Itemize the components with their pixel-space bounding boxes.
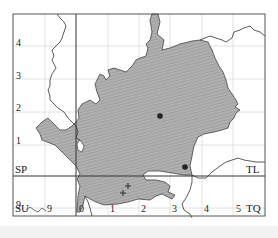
easting-label: 5: [236, 203, 241, 214]
record-dot: [157, 113, 163, 119]
distribution-map: 4 3 2 1 9 SP TL SU TQ 9 0 1 2 3 4 5: [0, 0, 278, 238]
northing-label: 3: [16, 70, 21, 81]
easting-label: 0: [79, 203, 84, 214]
easting-label: 3: [172, 203, 177, 214]
boundary-line-west: [48, 14, 80, 140]
grid-square-label-tl: TL: [246, 163, 260, 175]
grid-square-label-su: SU: [15, 202, 29, 214]
easting-label: 1: [110, 203, 115, 214]
easting-label: 4: [204, 203, 209, 214]
county-region: [36, 14, 240, 212]
easting-label: 9: [47, 203, 52, 214]
northing-label: 4: [16, 37, 21, 48]
record-dot: [182, 164, 188, 170]
easting-label: 2: [141, 203, 146, 214]
boundary-line-south: [182, 175, 192, 218]
grid-square-label-sp: SP: [15, 163, 27, 175]
northing-label: 2: [16, 102, 21, 113]
northing-label: 1: [16, 135, 21, 146]
grid-square-label-tq: TQ: [246, 202, 261, 214]
